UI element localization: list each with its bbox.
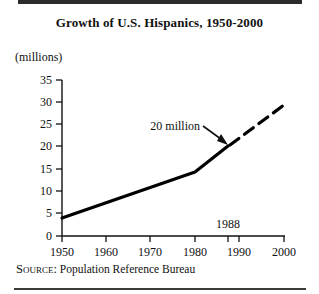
y-tick-label: 35 xyxy=(40,73,52,87)
x-tick-label: 1950 xyxy=(50,245,74,259)
x-axis-ticks xyxy=(62,236,284,242)
x-tick-label: 1980 xyxy=(183,245,207,259)
line-chart-plot: 35 30 25 20 15 10 5 0 1950 1960 1970 198… xyxy=(0,0,319,294)
source-note: Source: Population Reference Bureau xyxy=(16,262,195,277)
annotation-20-million-label: 20 million xyxy=(150,119,200,133)
data-line-projected xyxy=(230,105,284,145)
x-tick-label: 1970 xyxy=(138,245,162,259)
data-line-actual xyxy=(62,146,228,218)
x-tick-label: 1960 xyxy=(94,245,118,259)
y-tick-label: 20 xyxy=(40,139,52,153)
y-axis-ticks xyxy=(56,80,62,236)
y-axis-tick-labels: 35 30 25 20 15 10 5 0 xyxy=(40,73,52,243)
source-prefix: Source: xyxy=(16,262,57,276)
y-tick-label: 10 xyxy=(40,184,52,198)
y-tick-label: 30 xyxy=(40,95,52,109)
x-axis-tick-labels: 1950 1960 1970 1980 1990 2000 xyxy=(50,245,296,259)
x-tick-label: 2000 xyxy=(272,245,296,259)
y-tick-label: 5 xyxy=(46,206,52,220)
source-text: Population Reference Bureau xyxy=(60,263,195,275)
y-tick-label: 25 xyxy=(40,117,52,131)
y-tick-label: 0 xyxy=(46,229,52,243)
annotation-arrow-icon xyxy=(203,126,228,145)
annotation-1988-label: 1988 xyxy=(216,217,240,231)
scan-bottom-rule xyxy=(14,288,306,290)
y-tick-label: 15 xyxy=(40,162,52,176)
x-tick-label: 1990 xyxy=(227,245,251,259)
